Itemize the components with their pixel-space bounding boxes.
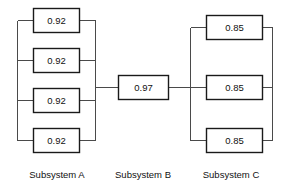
block-a-1-value: 0.92 (47, 15, 66, 26)
block-a-1[interactable]: 0.92 (34, 9, 80, 33)
block-a-2-value: 0.92 (47, 55, 66, 66)
block-b-1-value: 0.97 (134, 82, 153, 93)
block-a-4[interactable]: 0.92 (34, 129, 80, 153)
block-a-4-value: 0.92 (47, 135, 66, 146)
block-c-2-value: 0.85 (225, 82, 244, 93)
subsystem-b-blocks: 0.97 (119, 76, 169, 100)
subsystem-c-blocks: 0.85 0.85 0.85 (207, 16, 263, 153)
diagram-canvas: 0.92 0.92 0.92 0.92 0.97 (0, 0, 288, 185)
block-a-3[interactable]: 0.92 (34, 89, 80, 113)
block-c-3-value: 0.85 (225, 135, 244, 146)
subsystem-a-blocks: 0.92 0.92 0.92 0.92 (34, 9, 80, 153)
subsystem-a-wiring (18, 21, 96, 141)
block-a-3-value: 0.92 (47, 95, 66, 106)
reliability-block-diagram: 0.92 0.92 0.92 0.92 0.97 (0, 0, 288, 185)
block-c-3[interactable]: 0.85 (207, 129, 263, 153)
block-c-1[interactable]: 0.85 (207, 16, 263, 40)
subsystem-a-label: Subsystem A (29, 169, 85, 180)
block-b-1[interactable]: 0.97 (119, 76, 169, 100)
subsystem-b-label: Subsystem B (115, 169, 171, 180)
block-a-2[interactable]: 0.92 (34, 49, 80, 73)
subsystem-labels: Subsystem A Subsystem B Subsystem C (29, 169, 259, 180)
block-c-1-value: 0.85 (225, 22, 244, 33)
block-c-2[interactable]: 0.85 (207, 76, 263, 100)
subsystem-c-label: Subsystem C (203, 169, 260, 180)
